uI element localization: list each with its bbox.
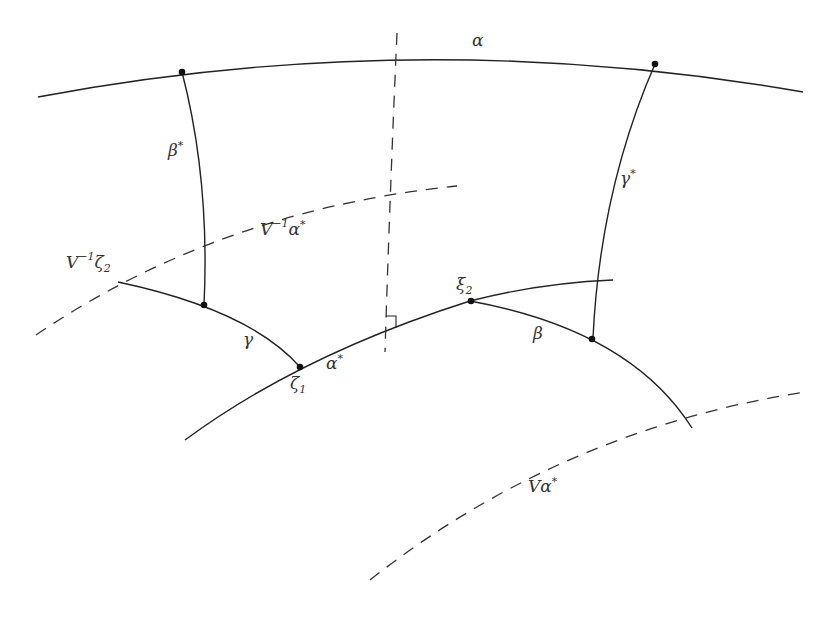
label-beta-star: β* <box>167 139 184 160</box>
curve-beta-star <box>182 72 205 305</box>
label-alpha-star: α* <box>326 352 343 373</box>
label-alpha: α <box>472 30 484 50</box>
point-beta-gamma-star <box>589 336 596 343</box>
point-zeta1 <box>297 364 304 371</box>
point-gamma-beta-star <box>201 302 208 309</box>
label-v-inverse-alpha-star: V−1α* <box>260 217 306 239</box>
label-zeta1: ζ1 <box>290 373 306 396</box>
curve-alpha <box>38 60 803 97</box>
point-xi2 <box>468 298 475 305</box>
curve-xi2-upper-branch <box>470 280 613 301</box>
point-alpha-gamma-star <box>652 61 659 68</box>
curve-v-alpha-star <box>370 392 805 580</box>
curve-beta <box>470 301 692 428</box>
label-xi2: ξ2 <box>456 274 472 297</box>
geometry-diagram: α β* γ* V−1α* V−1ζ2 ξ2 γ β α* ζ1 Vα* <box>0 0 839 617</box>
curve-gamma-star <box>593 64 655 338</box>
label-v-alpha-star: Vα* <box>528 475 558 496</box>
label-gamma: γ <box>243 329 254 349</box>
curve-gamma <box>118 282 300 367</box>
label-v-inverse-zeta2: V−1ζ2 <box>66 250 111 275</box>
curve-perpendicular-dashed <box>385 33 397 352</box>
label-beta: β <box>532 323 543 343</box>
label-gamma-star: γ* <box>620 167 636 188</box>
point-alpha-beta-star <box>179 69 186 76</box>
right-angle-marker <box>386 316 396 328</box>
